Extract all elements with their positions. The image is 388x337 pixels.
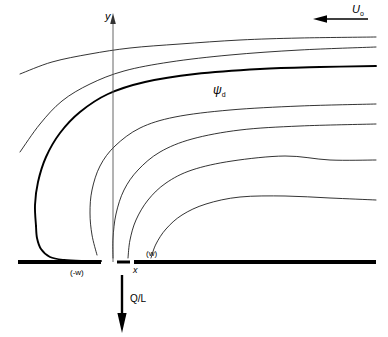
sink-arrowhead-icon [117, 313, 126, 333]
streamline-6 [151, 196, 376, 258]
psi-subscript: d [222, 91, 226, 98]
x-axis-label: x [133, 266, 138, 275]
y-axis-arrowhead-icon [110, 13, 116, 24]
streamline-1 [20, 37, 376, 74]
psi-symbol: ψ [213, 83, 222, 97]
streamline-3 [90, 104, 376, 255]
sink-right-edge-label: (w) [146, 250, 157, 258]
streamline-5 [128, 156, 376, 258]
sink-left-edge-label: (-w) [70, 269, 84, 277]
streamline-plot [0, 0, 388, 337]
streamline-group [20, 37, 376, 261]
free-stream-subscript: o [360, 10, 364, 17]
streamline-2 [20, 47, 376, 152]
dividing-streamline-psi-d [35, 66, 376, 226]
streamline-figure: y x Uo ψd (-w) (w) Q/L [0, 0, 388, 337]
free-stream-symbol: U [352, 3, 360, 15]
dividing-streamline-label: ψd [213, 84, 226, 98]
streamline-4 [113, 124, 376, 258]
free-stream-label: Uo [352, 4, 364, 17]
sink-strength-label: Q/L [130, 294, 146, 304]
free-stream-arrowhead-icon [313, 15, 327, 23]
y-axis-label: y [105, 11, 111, 22]
sink-arrow [117, 275, 126, 333]
